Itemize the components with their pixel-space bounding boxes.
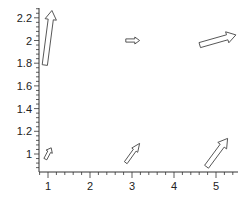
y-tick-label: 2 bbox=[26, 35, 32, 47]
quiver-arrow bbox=[126, 37, 140, 44]
quiver-arrow bbox=[124, 143, 139, 163]
x-tick-label: 2 bbox=[87, 180, 93, 192]
x-tick-label: 4 bbox=[171, 180, 177, 192]
y-tick-label: 1 bbox=[26, 148, 32, 160]
x-tick-label: 3 bbox=[129, 180, 135, 192]
quiver-arrow bbox=[199, 32, 236, 48]
quiver-chart: 11.21.41.61.822.212345 bbox=[0, 0, 250, 201]
x-tick-label: 5 bbox=[213, 180, 219, 192]
arrows-layer bbox=[42, 11, 236, 169]
quiver-arrow bbox=[205, 138, 228, 168]
y-tick-label: 2.2 bbox=[17, 12, 32, 24]
y-tick-label: 1.2 bbox=[17, 125, 32, 137]
quiver-arrow bbox=[44, 148, 52, 160]
y-tick-label: 1.6 bbox=[17, 80, 32, 92]
y-tick-label: 1.8 bbox=[17, 57, 32, 69]
quiver-arrow bbox=[42, 11, 56, 66]
y-tick-label: 1.4 bbox=[17, 103, 32, 115]
x-tick-label: 1 bbox=[45, 180, 51, 192]
